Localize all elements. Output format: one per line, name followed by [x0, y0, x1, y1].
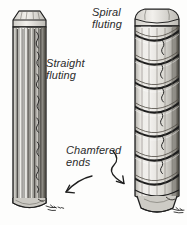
label-spiral-fluting: Spiral fluting — [92, 7, 122, 30]
left-dowel-chamfered-top — [13, 11, 46, 27]
illustration-artwork — [0, 0, 187, 225]
arrow-to-left-dowel-end — [66, 176, 92, 193]
right-dowel-spiral-fluted — [134, 9, 184, 213]
left-dowel-body — [13, 27, 46, 208]
right-dowel-ground-hatch — [172, 208, 184, 213]
left-dowel-chamfered-bottom — [13, 198, 46, 208]
label-straight-fluting: Straight fluting — [46, 58, 85, 81]
left-dowel-ground-hatch — [46, 205, 64, 211]
label-chamfered-ends: Chamfered ends — [66, 145, 121, 168]
dowel-fluting-figure: Straight fluting Spiral fluting Chamfere… — [0, 0, 187, 225]
right-dowel-chamfered-top — [135, 9, 179, 26]
left-dowel-straight-fluted — [13, 11, 64, 211]
